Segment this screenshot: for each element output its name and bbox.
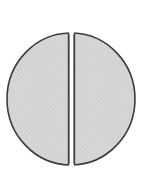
bisected-disc-figure (0, 0, 150, 177)
figure-canvas (0, 0, 150, 177)
vertical-slit (69, 33, 73, 165)
